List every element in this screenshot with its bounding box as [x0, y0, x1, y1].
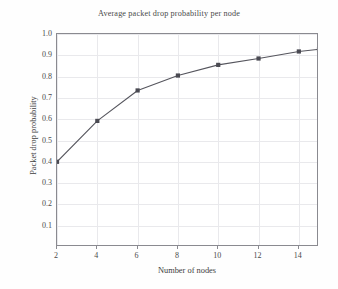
x-tick-mark: [137, 246, 138, 249]
x-axis-tick-marks: [56, 246, 318, 250]
data-point-marker: [297, 49, 301, 53]
x-tick-label: 6: [124, 251, 150, 260]
x-tick-mark: [217, 246, 218, 249]
x-tick-label: 12: [245, 251, 271, 260]
x-tick-mark: [258, 246, 259, 249]
y-axis-label: Packet drop probability: [29, 46, 38, 226]
plot-area: [56, 33, 318, 246]
data-point-marker: [176, 73, 180, 77]
x-tick-label: 14: [285, 251, 311, 260]
x-tick-label: 4: [83, 251, 109, 260]
series-polyline: [57, 49, 318, 161]
x-tick-label: 8: [164, 251, 190, 260]
x-tick-mark: [56, 246, 57, 249]
data-point-marker: [57, 160, 59, 164]
chart-title: Average packet drop probability per node: [0, 9, 338, 18]
x-tick-label: 2: [43, 251, 69, 260]
x-axis-tick-labels: 2468101214: [56, 251, 318, 263]
series-markers: [57, 47, 318, 164]
chart-figure: Average packet drop probability per node…: [0, 0, 338, 289]
data-point-marker: [95, 119, 99, 123]
data-point-marker: [256, 56, 260, 60]
data-point-marker: [136, 88, 140, 92]
x-tick-mark: [96, 246, 97, 249]
x-tick-mark: [298, 246, 299, 249]
x-axis-label: Number of nodes: [56, 266, 318, 275]
x-tick-mark: [177, 246, 178, 249]
data-point-marker: [317, 47, 318, 51]
y-tick-label: 1.0: [28, 29, 52, 38]
data-point-marker: [216, 63, 220, 67]
data-series-line: [57, 34, 318, 246]
x-tick-label: 10: [204, 251, 230, 260]
